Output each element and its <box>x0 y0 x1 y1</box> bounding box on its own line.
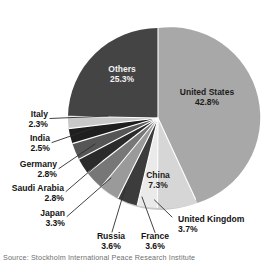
slice-label-japan: Japan 3.3% <box>0 209 65 228</box>
slice-label-united-states-percent: 42.8% <box>168 98 246 108</box>
slice-label-france: France 3.6% <box>131 232 179 251</box>
slice-label-saudi-arabia-percent: 2.8% <box>0 194 64 204</box>
slice-label-saudi-arabia: Saudi Arabia 2.8% <box>0 184 64 203</box>
slice-label-germany-percent: 2.8% <box>0 170 57 180</box>
slice-label-italy: Italy 2.3% <box>0 110 48 129</box>
slice-label-china: China 7.3% <box>133 171 183 190</box>
slice-label-germany: Germany 2.8% <box>0 160 57 179</box>
slice-label-france-percent: 3.6% <box>131 242 179 252</box>
leader-line-japan <box>67 178 111 217</box>
slice-label-russia-percent: 3.6% <box>85 242 137 252</box>
pie-chart: United States 42.8% Others 25.3% China 7… <box>0 0 263 269</box>
slice-label-united-states: United States 42.8% <box>168 88 246 107</box>
slice-label-united-kingdom: United Kingdom 3.7% <box>178 215 262 234</box>
slice-label-italy-percent: 2.3% <box>0 120 48 130</box>
slice-label-united-kingdom-percent: 3.7% <box>178 225 262 235</box>
slice-label-russia: Russia 3.6% <box>85 232 137 251</box>
slice-label-others-percent: 25.3% <box>91 75 153 85</box>
slice-label-india: India 2.5% <box>0 134 50 153</box>
slice-label-japan-percent: 3.3% <box>0 219 65 229</box>
slice-label-others: Others 25.3% <box>91 65 153 84</box>
slice-label-india-percent: 2.5% <box>0 144 50 154</box>
slice-label-china-percent: 7.3% <box>133 181 183 191</box>
source-note: Source: Stockholm International Peace Re… <box>3 253 195 262</box>
